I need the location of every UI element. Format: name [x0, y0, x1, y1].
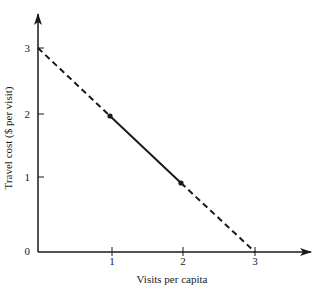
- y-tick-label-1: 1: [25, 171, 31, 183]
- x-tick-label-1: 1: [109, 255, 115, 267]
- y-tick-labels: 0 1 2 3: [25, 42, 31, 257]
- chart: 0 1 2 3 1 2 3 Visits per capita Travel c…: [0, 0, 323, 294]
- data-point-2: [178, 180, 183, 185]
- data-point-1: [107, 113, 112, 118]
- x-tick-label-3: 3: [252, 255, 258, 267]
- dashed-segment-upper: [38, 48, 110, 116]
- dashed-segment-lower: [181, 183, 255, 252]
- x-tick-labels: 1 2 3: [109, 255, 258, 267]
- y-tick-label-0: 0: [25, 245, 31, 257]
- y-tick-label-2: 2: [25, 108, 31, 120]
- x-tick-label-2: 2: [180, 255, 186, 267]
- y-ticks: [38, 48, 44, 177]
- y-axis-label: Travel cost ($ per visit): [2, 86, 15, 189]
- y-tick-label-3: 3: [25, 42, 31, 54]
- x-axis-label: Visits per capita: [137, 273, 208, 285]
- solid-segment: [110, 116, 181, 183]
